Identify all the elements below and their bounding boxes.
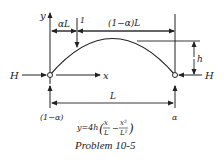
arch-equation: y=4h ( x L − x² L² ) — [76, 119, 134, 137]
svg-text:x: x — [104, 119, 108, 127]
svg-text:y=4h: y=4h — [76, 123, 98, 132]
right-reaction-label: α — [172, 113, 178, 122]
right-thrust-label: H — [204, 70, 214, 81]
unit-load-label: 1 — [80, 16, 85, 25]
left-thrust-label: H — [9, 70, 19, 81]
left-segment-label: αL — [58, 19, 70, 29]
span-label: L — [109, 91, 116, 101]
x-axis-label: x — [103, 70, 109, 81]
svg-text:x²: x² — [120, 119, 127, 127]
rise-label: h — [197, 54, 203, 64]
svg-text:L²: L² — [119, 129, 128, 137]
right-hinge-support — [173, 73, 178, 78]
svg-text:): ) — [128, 122, 134, 136]
arch-diagram: y x H H αL (1−α)L 1 h L (1−α) α — [0, 0, 224, 160]
svg-text:−: − — [112, 124, 119, 133]
problem-caption: Problem 10-5 — [74, 139, 136, 151]
left-hinge-support — [48, 73, 53, 78]
arch-curve — [50, 39, 175, 76]
svg-text:L: L — [103, 129, 109, 137]
y-axis-label: y — [39, 10, 46, 21]
right-segment-label: (1−α)L — [108, 18, 140, 28]
left-reaction-label: (1−α) — [40, 113, 63, 122]
